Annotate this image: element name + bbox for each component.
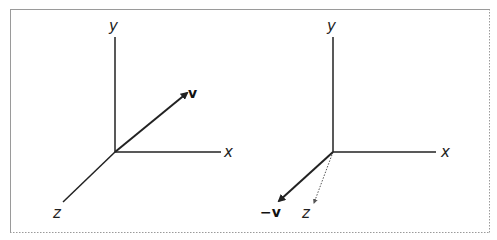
y-axis-label: y — [108, 17, 119, 35]
y-axis-label: y — [326, 17, 337, 35]
panel-vector-negative-v: y x z −v — [260, 17, 450, 222]
z-axis-label: z — [301, 204, 311, 222]
x-axis-label: x — [440, 143, 450, 161]
panel-vector-v: y x z v — [52, 17, 233, 222]
z-axis-label: z — [52, 204, 62, 222]
vector-v-label: v — [188, 85, 197, 101]
z-axis — [63, 152, 115, 202]
x-axis-label: x — [223, 143, 233, 161]
vector-v-arrow — [115, 93, 187, 152]
vector-negative-v-label: −v — [260, 204, 281, 220]
vector-negative-v-arrow — [279, 152, 333, 201]
figure-frame — [10, 9, 490, 233]
vector-negation-diagram: y x z v y x z −v — [0, 0, 497, 240]
